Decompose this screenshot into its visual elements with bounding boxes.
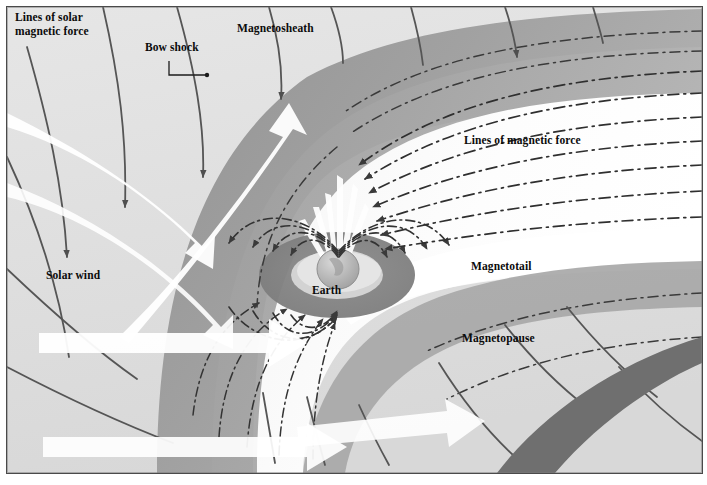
label-magnetotail: Magnetotail: [471, 260, 532, 274]
label-bow-shock: Bow shock: [145, 41, 199, 55]
label-solar-wind: Solar wind: [46, 269, 100, 283]
figure-stage: Lines of solar magnetic force Bow shock …: [0, 0, 707, 485]
label-earth: Earth: [312, 284, 341, 298]
label-lines-of-magnetic-force: Lines of magnetic force: [464, 134, 581, 148]
label-magnetosheath: Magnetosheath: [237, 22, 314, 36]
magnetosphere-illustration: [7, 7, 702, 473]
diagram-frame: Lines of solar magnetic force Bow shock …: [6, 6, 703, 474]
label-magnetopause: Magnetopause: [462, 332, 535, 346]
label-lines-of-solar-magnetic-force: Lines of solar magnetic force: [15, 11, 89, 38]
